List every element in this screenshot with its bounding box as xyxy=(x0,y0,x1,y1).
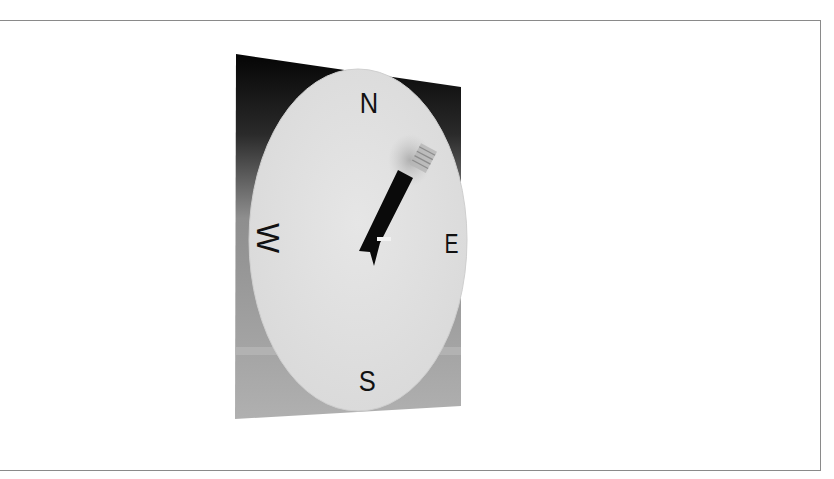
label-east: E xyxy=(444,228,458,259)
label-north: N xyxy=(360,86,378,119)
label-south: S xyxy=(359,364,376,397)
compass-illustration: N S E W xyxy=(0,0,834,479)
label-west: W xyxy=(250,223,286,254)
